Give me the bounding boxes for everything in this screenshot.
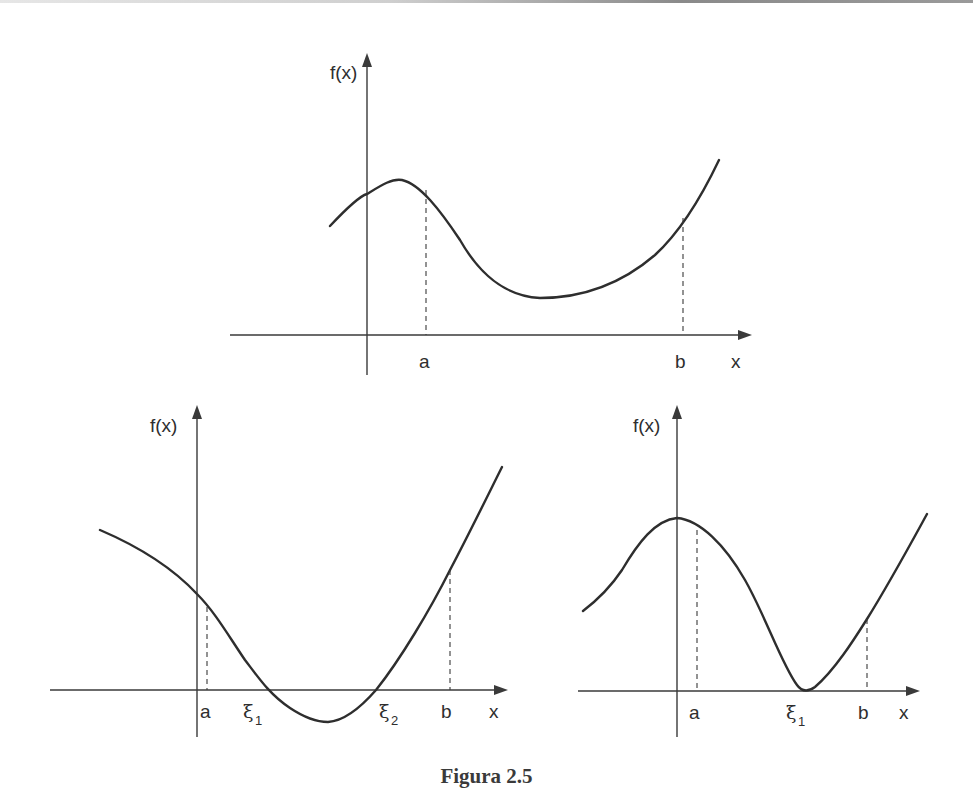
tick-label-a: a [419,351,430,372]
function-curve [100,467,502,722]
y-axis-arrow-icon [192,405,202,419]
y-axis-label: f(x) [150,415,177,436]
tick-label-xi1-subscript: 1 [798,714,805,729]
tick-label-a: a [200,701,211,722]
tick-label-xi2-subscript: 2 [391,713,398,728]
tick-label-xi1: ξ [786,701,796,723]
x-axis-label: x [899,702,909,723]
figure-canvas: f(x) a b x f(x) a ξ 1 ξ 2 b x f(x) a ξ 1 [0,0,973,798]
x-axis-arrow-icon [906,686,920,696]
x-axis-arrow-icon [494,685,508,695]
tick-label-xi1: ξ [243,700,253,722]
function-curve [330,160,719,298]
figure-caption: Figura 2.5 [0,764,973,789]
function-curve [583,514,927,691]
x-axis-label: x [731,351,741,372]
plot-top: f(x) a b x [230,53,752,375]
y-axis-arrow-icon [362,53,372,67]
plot-bottom-left: f(x) a ξ 1 ξ 2 b x [50,405,508,737]
tick-label-a: a [689,702,700,723]
plot-bottom-right: f(x) a ξ 1 b x [578,405,927,737]
tick-label-b: b [441,701,452,722]
x-axis-arrow-icon [738,330,752,340]
tick-label-xi2: ξ [379,700,389,722]
tick-label-b: b [675,351,686,372]
y-axis-label: f(x) [633,415,660,436]
x-axis-label: x [489,701,499,722]
tick-label-xi1-subscript: 1 [255,713,262,728]
y-axis-arrow-icon [672,405,682,419]
tick-label-b: b [858,702,869,723]
y-axis-label: f(x) [330,62,357,83]
